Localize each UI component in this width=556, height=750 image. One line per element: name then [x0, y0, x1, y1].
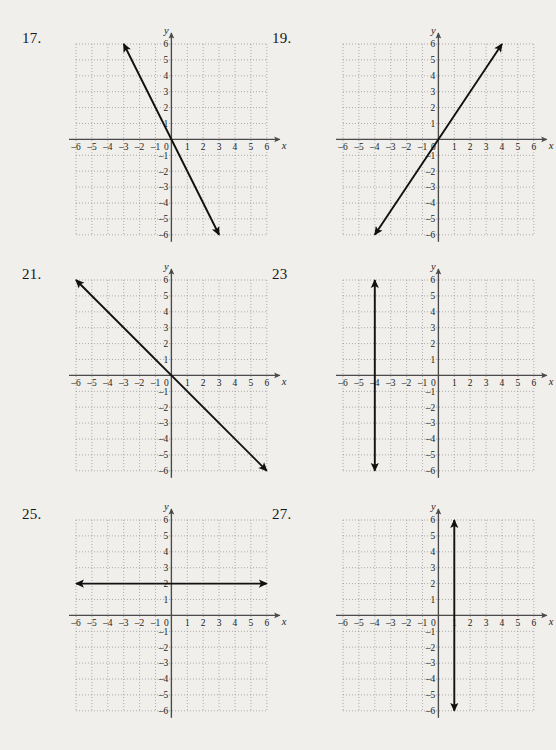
graph-holder-p23: –6–5–4–3–2–10123456654321–1–2–3–4–5–6xy [323, 264, 556, 487]
x-tick-label: 5 [249, 378, 254, 388]
y-tick-label: 1 [430, 355, 435, 365]
y-axis-label: y [430, 24, 436, 35]
x-tick-label: 4 [233, 142, 238, 152]
x-tick-label: –6 [70, 378, 81, 388]
x-tick-label: 4 [233, 618, 238, 628]
y-axis-label: y [163, 500, 169, 511]
y-tick-label: –2 [425, 643, 436, 653]
coordinate-grid-p21: –6–5–4–3–2–10123456654321–1–2–3–4–5–6xy [56, 264, 289, 487]
x-axis-label: x [281, 376, 287, 387]
axes [336, 269, 547, 478]
y-tick-label: –5 [158, 450, 169, 460]
x-tick-label: –3 [118, 142, 129, 152]
x-tick-label: 6 [531, 618, 536, 628]
problem-number-p19: 19. [272, 30, 291, 47]
x-tick-label: –4 [102, 142, 113, 152]
y-tick-label: 3 [430, 563, 435, 573]
y-tick-label: 4 [430, 307, 435, 317]
y-tick-label: 5 [430, 55, 435, 65]
y-tick-label: 1 [430, 119, 435, 129]
y-tick-label: –6 [425, 466, 436, 476]
y-tick-label: 6 [430, 39, 435, 49]
y-tick-label: 5 [430, 531, 435, 541]
y-tick-label: 5 [163, 531, 168, 541]
x-tick-label: –6 [337, 378, 348, 388]
y-tick-label: 4 [430, 547, 435, 557]
y-tick-label: 4 [163, 71, 168, 81]
x-tick-label: –6 [70, 618, 81, 628]
coordinate-grid-p27: –6–5–4–3–2–10123456654321–1–2–3–4–5–6xy [323, 504, 556, 727]
y-tick-label: –4 [158, 198, 169, 208]
y-tick-label: 1 [163, 355, 168, 365]
x-tick-label: 1 [185, 142, 190, 152]
x-tick-label: 4 [500, 142, 505, 152]
y-tick-label: –5 [425, 450, 436, 460]
y-tick-label: –5 [158, 214, 169, 224]
y-tick-label: –2 [158, 167, 169, 177]
y-tick-label: –6 [158, 230, 169, 240]
x-tick-label: 4 [233, 378, 238, 388]
x-tick-label: 1 [185, 618, 190, 628]
x-tick-label: 2 [468, 142, 473, 152]
y-tick-label: –1 [158, 627, 169, 637]
y-tick-label: 6 [430, 275, 435, 285]
y-tick-label: –2 [158, 643, 169, 653]
x-tick-label: –4 [102, 618, 113, 628]
x-tick-label: 3 [484, 618, 489, 628]
axes [69, 33, 280, 242]
y-tick-label: 3 [430, 87, 435, 97]
x-tick-label: 1 [185, 378, 190, 388]
x-tick-label: –5 [353, 142, 364, 152]
y-tick-label: –6 [425, 706, 436, 716]
x-tick-label: 5 [516, 378, 521, 388]
y-tick-label: 3 [430, 323, 435, 333]
x-tick-label: –3 [385, 378, 396, 388]
x-tick-label: 3 [217, 142, 222, 152]
y-tick-label: –5 [425, 690, 436, 700]
y-tick-label: –3 [158, 658, 169, 668]
y-tick-label: 5 [163, 291, 168, 301]
y-tick-label: –3 [425, 418, 436, 428]
x-axis-label: x [548, 140, 554, 151]
problem-number-p21: 21. [22, 266, 41, 283]
y-tick-label: –2 [425, 403, 436, 413]
y-tick-label: 6 [163, 39, 168, 49]
y-axis-label: y [430, 500, 436, 511]
y-tick-label: 3 [163, 87, 168, 97]
problem-number-p27: 27. [272, 506, 291, 523]
y-tick-label: 5 [430, 291, 435, 301]
x-tick-label: –2 [134, 618, 145, 628]
y-tick-label: –3 [425, 182, 436, 192]
y-tick-label: 3 [163, 323, 168, 333]
y-tick-label: 2 [163, 103, 168, 113]
x-tick-label: –3 [118, 378, 129, 388]
y-tick-label: 2 [163, 339, 168, 349]
graph-holder-p19: –6–5–4–3–2–10123456654321–1–2–3–4–5–6xy [323, 28, 556, 251]
x-tick-label: –3 [118, 618, 129, 628]
axes [336, 509, 547, 718]
x-tick-label: 3 [484, 378, 489, 388]
x-tick-label: 5 [249, 142, 254, 152]
y-tick-label: 1 [430, 595, 435, 605]
x-tick-label: 6 [264, 142, 269, 152]
x-tick-label: 3 [217, 618, 222, 628]
y-tick-label: –2 [425, 167, 436, 177]
y-tick-label: –1 [425, 627, 436, 637]
x-tick-label: 5 [516, 142, 521, 152]
y-axis-label: y [163, 260, 169, 271]
x-axis-label: x [548, 616, 554, 627]
x-tick-label: 1 [452, 142, 457, 152]
y-tick-label: 6 [163, 515, 168, 525]
graph-holder-p27: –6–5–4–3–2–10123456654321–1–2–3–4–5–6xy [323, 504, 556, 727]
y-tick-label: 2 [430, 103, 435, 113]
y-tick-label: –6 [158, 706, 169, 716]
x-tick-label: –2 [401, 378, 412, 388]
y-tick-label: 4 [163, 547, 168, 557]
coordinate-grid-p17: –6–5–4–3–2–10123456654321–1–2–3–4–5–6xy [56, 28, 289, 251]
coordinate-grid-p23: –6–5–4–3–2–10123456654321–1–2–3–4–5–6xy [323, 264, 556, 487]
x-axis-label: x [281, 616, 287, 627]
x-tick-label: –2 [401, 142, 412, 152]
x-tick-label: –4 [102, 378, 113, 388]
y-tick-label: –5 [425, 214, 436, 224]
x-axis-label: x [548, 376, 554, 387]
